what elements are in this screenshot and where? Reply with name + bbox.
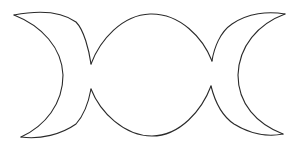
left-crescent-lower-arc xyxy=(21,89,91,138)
center-circle-lower-arc xyxy=(91,86,211,136)
right-crescent-upper-arc xyxy=(212,13,285,61)
right-crescent-inner-arc xyxy=(238,14,285,134)
triple-moon-illustration xyxy=(0,0,301,147)
left-crescent-inner-arc xyxy=(14,15,63,137)
right-crescent-lower-arc xyxy=(211,86,283,135)
triple-moon-icon xyxy=(0,0,301,147)
center-circle-upper-arc xyxy=(91,14,212,64)
